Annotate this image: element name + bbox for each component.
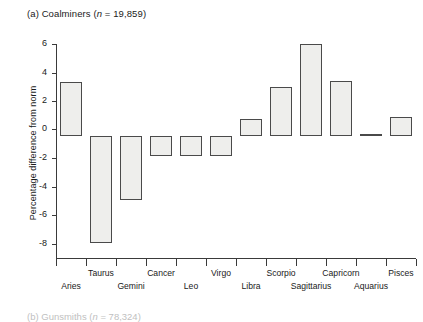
x-tick-taurus — [86, 259, 87, 266]
bar-libra — [240, 119, 262, 136]
x-tick-sagittarius — [296, 259, 297, 266]
x-axis-label-cancer: Cancer — [147, 268, 175, 278]
bar-virgo — [210, 136, 232, 156]
bar-taurus — [90, 136, 112, 243]
next-figure-caption: (b) Gunsmiths (n = 78,324) — [27, 311, 141, 322]
x-axis-label-taurus: Taurus — [88, 268, 114, 278]
x-tick-end — [416, 259, 417, 266]
bar-pisces — [390, 117, 412, 135]
x-axis-label-gemini: Gemini — [117, 281, 144, 291]
next-caption-suffix: = 78,324) — [98, 311, 141, 322]
bar-aries — [60, 82, 82, 136]
x-tick-leo — [176, 259, 177, 266]
x-tick-gemini — [116, 259, 117, 266]
x-tick-cancer — [146, 259, 147, 266]
x-axis-label-aquarius: Aquarius — [354, 281, 388, 291]
x-tick-virgo — [206, 259, 207, 266]
x-tick-aries — [56, 259, 57, 266]
x-axis-label-sagittarius: Sagittarius — [291, 281, 332, 291]
x-axis-label-leo: Leo — [184, 281, 198, 291]
x-tick-pisces — [386, 259, 387, 266]
bar-scorpio — [270, 87, 292, 136]
bar-leo — [180, 136, 202, 156]
x-tick-scorpio — [266, 259, 267, 266]
bar-gemini — [120, 136, 142, 200]
x-tick-aquarius — [356, 259, 357, 266]
bar-aquarius — [360, 134, 382, 136]
bar-capricorn — [330, 81, 352, 136]
x-axis-label-pisces: Pisces — [388, 268, 413, 278]
x-axis-label-libra: Libra — [241, 281, 260, 291]
x-tick-libra — [236, 259, 237, 266]
x-axis-label-capricorn: Capricorn — [322, 268, 359, 278]
x-axis-label-scorpio: Scorpio — [266, 268, 295, 278]
x-axis-label-aries: Aries — [61, 281, 81, 291]
bar-sagittarius — [300, 44, 322, 136]
bar-cancer — [150, 136, 172, 156]
x-axis-label-virgo: Virgo — [211, 268, 231, 278]
next-caption-prefix: (b) Gunsmiths ( — [27, 311, 92, 322]
x-tick-capricorn — [326, 259, 327, 266]
